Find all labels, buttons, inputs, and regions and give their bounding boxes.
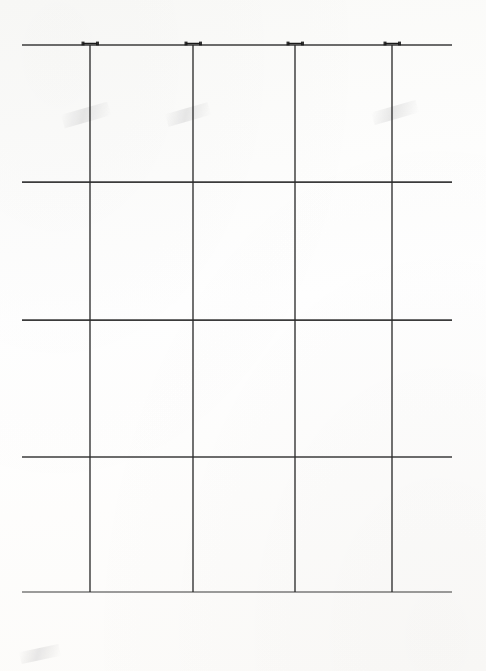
joint-end-blob-left [287,42,290,46]
joint-end-blob-right [199,42,202,46]
joint-end-blob-right [301,42,304,46]
joint-end-blob-right [96,42,99,46]
joint-end-blob-left [384,42,387,46]
drawing-sheet [0,0,486,671]
joint-end-blob-left [82,42,85,46]
columns-group [90,45,392,592]
joint-end-blob-right [398,42,401,46]
frame-drawing [0,0,486,671]
joint-end-blob-left [185,42,188,46]
beams-group [22,45,452,592]
